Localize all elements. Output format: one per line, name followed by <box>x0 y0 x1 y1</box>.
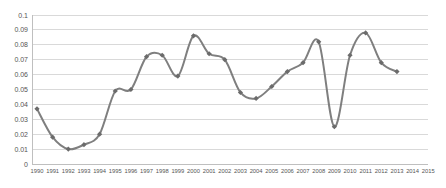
x-axis-tick-label: 2001 <box>203 168 216 174</box>
x-axis-tick-label: 2009 <box>328 168 341 174</box>
x-axis-tick-label: 2011 <box>359 168 371 174</box>
x-axis-tick-label: 1990 <box>31 168 44 174</box>
data-point-marker <box>347 53 352 58</box>
y-axis-tick-label: 0.04 <box>14 101 28 108</box>
x-axis-tick-label: 2010 <box>344 168 357 174</box>
y-axis-tick-label: 0.02 <box>14 131 28 138</box>
x-axis-tick-label: 2005 <box>265 168 278 174</box>
chart-container: 0.10.090.080.070.060.050.040.030.020.010… <box>0 0 446 188</box>
x-axis-tick-label: 1995 <box>109 168 122 174</box>
x-axis-tick-label: 1998 <box>156 168 169 174</box>
x-axis-tick-label: 2006 <box>281 168 294 174</box>
x-axis-tick-label: 1997 <box>140 168 153 174</box>
y-axis-tick-label: 0.05 <box>14 86 28 93</box>
x-axis-tick-label: 2015 <box>422 168 435 174</box>
x-axis-tick-label: 2002 <box>218 168 231 174</box>
line-chart: 0.10.090.080.070.060.050.040.030.020.010… <box>0 0 446 188</box>
x-axis-tick-label: 1991 <box>46 168 59 174</box>
x-axis-tick-label: 2014 <box>406 168 420 174</box>
x-axis-tick-label: 2000 <box>187 168 200 174</box>
y-axis-tick-label: 0.01 <box>14 146 28 153</box>
x-axis-tick-label: 1992 <box>62 168 75 174</box>
x-axis-tick-label: 1994 <box>93 168 107 174</box>
y-axis-tick-label: 0 <box>24 161 28 168</box>
x-axis-tick-label: 2003 <box>234 168 247 174</box>
data-point-marker <box>66 147 71 152</box>
y-axis-tick-label: 0.08 <box>14 41 28 48</box>
x-axis-tick-label: 2008 <box>312 168 325 174</box>
x-axis-tick-label: 1993 <box>77 168 90 174</box>
y-axis-tick-label: 0.07 <box>14 56 28 63</box>
y-axis-tick-label: 0.09 <box>14 26 28 33</box>
series-line <box>37 33 397 150</box>
x-axis-tick-label: 2012 <box>375 168 388 174</box>
x-axis-tick-label: 1999 <box>171 168 184 174</box>
data-point-marker <box>254 96 259 101</box>
y-axis-tick-label: 0.1 <box>18 12 28 19</box>
y-axis-tick-label: 0.03 <box>14 116 28 123</box>
x-axis-tick-label: 2013 <box>390 168 403 174</box>
x-axis-tick-label: 1996 <box>124 168 137 174</box>
x-axis-tick-label: 2007 <box>297 168 310 174</box>
x-axis-tick-label: 2004 <box>250 168 264 174</box>
y-axis-tick-label: 0.06 <box>14 71 28 78</box>
